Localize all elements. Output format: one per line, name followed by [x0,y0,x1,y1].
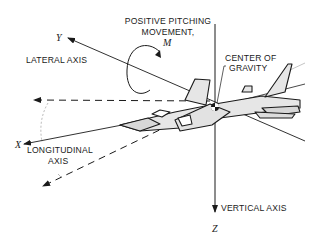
lateral-axis-label: LATERAL AXIS [26,55,87,65]
pitching-moment-label-line2: MOVEMENT, [120,27,216,37]
cg-label-line2: GRAVITY [229,63,268,73]
pitching-moment-label-line1: POSITIVE PITCHING [120,16,216,26]
pitch-angle-arc [41,103,48,142]
x-axis-symbol: X [15,139,21,150]
aircraft-axes-diagram: POSITIVE PITCHING MOVEMENT, M Y LATERAL … [0,0,327,246]
vertical-axis-label: VERTICAL AXIS [221,203,287,213]
aircraft-drawing [120,64,300,131]
dashed-horizontal-reference [34,100,210,101]
pitching-moment-arrow [127,46,160,94]
cg-label-line1: CENTER OF [225,53,276,63]
longitudinal-axis-label-line2: AXIS [48,156,68,166]
z-axis-symbol: Z [212,223,218,234]
moment-symbol: M [163,37,171,48]
longitudinal-axis-label-line1: LONGITUDINAL [27,145,93,155]
y-axis-symbol: Y [56,32,62,43]
cg-leader-line [217,66,226,103]
